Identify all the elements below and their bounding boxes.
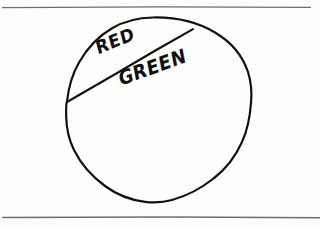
scanned-page: RED GREEN [0,0,320,227]
top-horizontal-rule [2,7,311,8]
diagram-canvas [0,0,320,227]
bottom-horizontal-rule [2,217,320,218]
circle-outline [66,17,251,202]
